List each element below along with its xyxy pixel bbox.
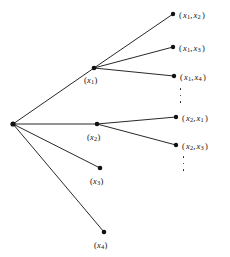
node-label-x4: (x4) — [94, 241, 107, 251]
vertical-ellipsis-x2-branch — [182, 156, 185, 171]
node-dot-x2x3 — [174, 143, 178, 147]
edge-group — [13, 14, 176, 232]
node-dot-x1x4 — [172, 74, 176, 78]
node-label-x3: (x3) — [90, 177, 103, 187]
leaf-label-x1-x4: ( x1, x4 ) — [180, 73, 206, 83]
edge-x2-to-x2x1 — [97, 117, 176, 124]
node-dot-x4 — [102, 230, 107, 235]
node-label-x2: (x2) — [87, 133, 100, 143]
node-dot-x1 — [92, 66, 97, 71]
node-dot-x3 — [98, 166, 103, 171]
node-dot-x1x3 — [171, 45, 175, 49]
node-dot-x2 — [95, 122, 100, 127]
node-dot-x1x2 — [171, 12, 175, 16]
node-dot-root — [10, 121, 15, 126]
vertical-ellipsis-x1-branch — [179, 88, 182, 103]
edge-root-to-x3 — [13, 124, 100, 168]
node-group — [10, 12, 178, 235]
leaf-label-x1-x3: ( x1, x3 ) — [179, 44, 205, 54]
edge-x1-to-x1x3 — [94, 47, 173, 68]
edge-x2-to-x2x3 — [97, 124, 176, 145]
node-dot-x2x1 — [174, 115, 178, 119]
edge-x1-to-x1x4 — [94, 68, 174, 76]
edge-x1-to-x1x2 — [94, 14, 173, 68]
edge-root-to-x1 — [13, 68, 94, 124]
leaf-label-x2-x1: ( x2, x1 ) — [182, 114, 208, 124]
node-label-x1: (x1) — [84, 76, 97, 86]
tree-diagram-figure: (x1) (x2) (x3) (x4) ( x1, x2 ) ( x1, x3 … — [0, 0, 230, 257]
leaf-label-x2-x3: ( x2, x3 ) — [182, 142, 208, 152]
leaf-label-x1-x2: ( x1, x2 ) — [179, 11, 205, 21]
tree-edges-and-nodes — [0, 0, 230, 257]
